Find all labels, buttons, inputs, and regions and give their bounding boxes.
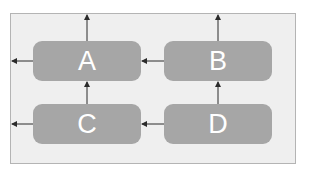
node-b-label: B	[209, 48, 227, 75]
node-c-label: C	[77, 111, 97, 138]
node-d: D	[164, 104, 272, 144]
node-a-label: A	[78, 48, 96, 75]
node-d-label: D	[208, 111, 228, 138]
node-c: C	[33, 104, 141, 144]
node-a: A	[33, 41, 141, 81]
node-b: B	[164, 41, 272, 81]
